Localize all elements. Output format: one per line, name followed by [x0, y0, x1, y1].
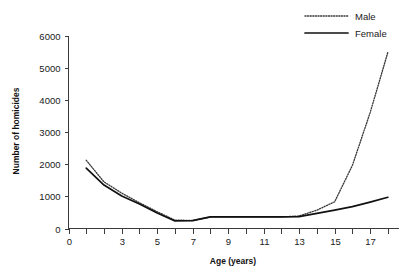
y-tick-label: 0: [55, 224, 60, 235]
y-tick-label: 4000: [39, 95, 60, 106]
chart-legend: Male Female: [305, 11, 387, 39]
series-line-female: [86, 168, 388, 221]
data-series-layer: [86, 52, 388, 221]
line-chart: 0100020003000400050006000 0357911131517 …: [0, 0, 413, 278]
y-tick-label: 5000: [39, 63, 60, 74]
x-tick-label: 13: [294, 236, 305, 247]
x-tick-label: 7: [191, 236, 196, 247]
x-tick-label: 3: [120, 236, 125, 247]
x-axis-ticks: [70, 229, 389, 234]
x-tick-label: 0: [67, 236, 72, 247]
y-axis-title: Number of homicides: [11, 87, 21, 174]
y-tick-label: 3000: [39, 127, 60, 138]
y-tick-label: 2000: [39, 159, 60, 170]
y-tick-label: 6000: [39, 31, 60, 42]
x-axis-tick-labels: 0357911131517: [67, 236, 376, 247]
x-tick-label: 5: [155, 236, 160, 247]
x-tick-label: 11: [260, 236, 270, 247]
legend-label-male: Male: [355, 11, 376, 22]
chart-figure: 0100020003000400050006000 0357911131517 …: [0, 0, 413, 278]
x-tick-label: 9: [226, 236, 231, 247]
series-line-male: [86, 52, 388, 220]
x-tick-label: 17: [365, 236, 376, 247]
y-tick-label: 1000: [39, 191, 60, 202]
y-axis-tick-labels: 0100020003000400050006000: [39, 31, 60, 235]
x-tick-label: 15: [330, 236, 341, 247]
legend-label-female: Female: [355, 28, 387, 39]
x-axis-title: Age (years): [210, 256, 256, 266]
